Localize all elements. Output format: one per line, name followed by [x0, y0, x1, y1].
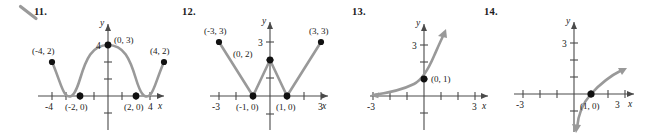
graph-12-y-axis-label: y [261, 16, 267, 26]
graph-11: y x -4 4 4 (-4, 2) (0, 3) (4, 2) (-2, 0)… [34, 12, 170, 136]
graph-12-ytick-3: 3 [258, 38, 263, 48]
graph-12-xtick--3: -3 [212, 102, 220, 112]
graph-14: y x -3 3 3 (1, 0) [512, 12, 652, 136]
graph-12-point-label-2: (3, 3) [309, 26, 329, 36]
graph-13-ytick-3: 3 [412, 41, 417, 51]
graph-11-y-axis-label: y [99, 18, 105, 28]
graph-14-xtick--3: -3 [516, 100, 524, 110]
problem-number-13: 13. [352, 6, 366, 17]
graph-11-point-label-2: (0, 3) [114, 35, 134, 45]
graph-11-point-label-3: (4, 2) [150, 46, 170, 56]
problem-number-12: 12. [182, 6, 196, 17]
graph-12-point-label-1: (-3, 3) [204, 26, 227, 36]
graph-12-point-label-5: (1, 0) [276, 102, 296, 112]
graph-14-x-axis-label: x [627, 99, 633, 109]
graph-12-xtick-3: 3 [318, 102, 323, 112]
graph-11-ytick-4: 4 [96, 41, 101, 51]
problem-panel-14: 14. [472, 0, 667, 139]
graph-11-point-label-1: (-4, 2) [32, 46, 55, 56]
graph-13-y-axis-label: y [415, 18, 421, 28]
graph-11-xtick--4: -4 [45, 102, 53, 112]
graph-11-point-label-4: (-2, 0) [65, 102, 88, 112]
graph-14-ytick-3: 3 [562, 39, 567, 49]
graph-12-point-label-3: (0, 2) [233, 49, 253, 59]
problem-panel-11: 11. [0, 0, 170, 139]
graph-12: y x -3 3 3 (-3, 3) (3, 3) (0, 2) (-1, 0)… [208, 10, 332, 136]
graph-13-point-label-1: (0, 1) [431, 74, 451, 84]
graph-14-xtick-3: 3 [615, 100, 620, 110]
graph-11-point-label-5: (2, 0) [124, 102, 144, 112]
problem-number-14: 14. [484, 6, 498, 17]
problem-panel-12: 12. [168, 0, 330, 139]
exercise-strip: 11. [0, 0, 667, 139]
graph-11-x-axis-label: x [157, 101, 163, 111]
graph-11-xtick-4: 4 [148, 102, 153, 112]
graph-14-y-axis-label: y [565, 16, 571, 26]
graph-12-point-label-4: (-1, 0) [236, 102, 259, 112]
problem-panel-13: 13. [330, 0, 490, 139]
graph-14-point-label-1: (1, 0) [580, 101, 600, 111]
graph-13-xtick--3: -3 [367, 102, 375, 112]
